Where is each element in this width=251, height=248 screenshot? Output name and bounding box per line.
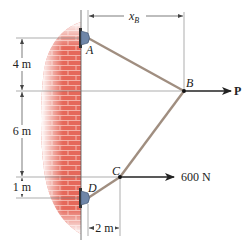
point-A-label: A [85, 43, 94, 57]
force-P: P [185, 84, 241, 98]
brick-wall [41, 10, 81, 240]
force-600N: 600 N [121, 170, 211, 184]
force-600N-label: 600 N [181, 170, 211, 184]
point-D-label: D [87, 181, 97, 195]
force-P-label: P [234, 84, 241, 98]
dim-1m-label: 1 m [13, 180, 32, 194]
xB-dimension: xB [89, 8, 183, 25]
point-C-label: C [112, 164, 121, 178]
dim-4m-label: 4 m [13, 57, 32, 71]
cable-segment-BC [120, 91, 184, 177]
cable-statics-diagram: 4 m 6 m 1 m xB 2 m A B C D P [0, 0, 251, 248]
point-B-label: B [186, 76, 194, 90]
dc-horizontal-dimension: 2 m [89, 221, 119, 235]
dim-2m-label: 2 m [95, 221, 114, 235]
cable-segment-AB [88, 38, 184, 91]
dim-6m-label: 6 m [13, 124, 32, 138]
cable [88, 38, 184, 198]
